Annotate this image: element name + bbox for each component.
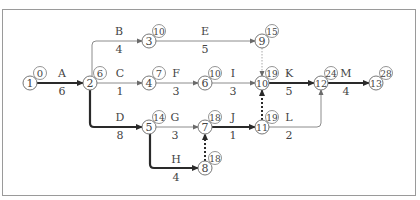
network-diagram: A6B4C1D8E5F3G3H4I3J1K5L2M4 1026310475146… — [0, 0, 420, 200]
diagram-frame — [2, 9, 416, 196]
